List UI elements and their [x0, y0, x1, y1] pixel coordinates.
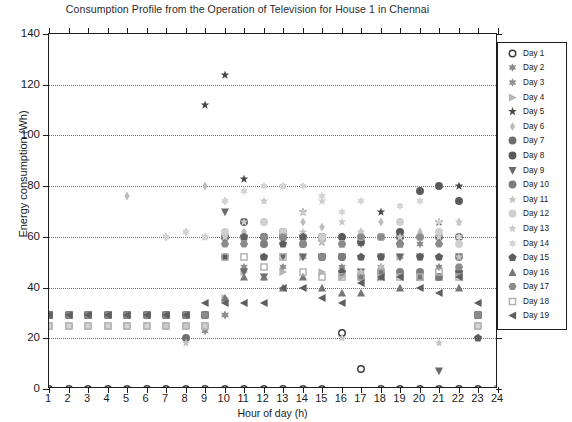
- legend-item[interactable]: Day 16: [498, 265, 566, 280]
- legend-item[interactable]: Day 6: [498, 119, 566, 134]
- triangle-up-icon: [501, 268, 523, 277]
- legend-item[interactable]: Day 2: [498, 61, 566, 76]
- data-point: [298, 283, 307, 292]
- data-point: [279, 268, 288, 277]
- data-point: [123, 321, 132, 330]
- data-point: [298, 253, 307, 262]
- x-axis-tick-label: 22: [452, 392, 464, 404]
- data-point: [415, 232, 424, 241]
- data-point: [298, 240, 307, 249]
- legend-item-label: Day 17: [523, 282, 549, 291]
- data-point: [240, 240, 249, 249]
- data-point: [415, 187, 424, 196]
- legend-item[interactable]: Day 1: [498, 46, 566, 61]
- data-point: [49, 385, 54, 388]
- data-point: [279, 253, 288, 262]
- data-point: [415, 197, 424, 206]
- x-axis-tick-label: 2: [64, 392, 70, 404]
- x-axis-tick-label: 11: [237, 392, 248, 404]
- data-point: [123, 192, 132, 201]
- y-axis-tick-label: 140: [21, 27, 40, 39]
- legend-item-label: Day 14: [523, 239, 549, 248]
- legend-item[interactable]: Day 13: [498, 221, 566, 236]
- diamond-icon: [501, 122, 523, 131]
- data-point: [201, 298, 210, 307]
- data-point: [415, 385, 424, 388]
- data-point: [181, 321, 190, 330]
- data-point: [279, 385, 288, 388]
- data-point: [494, 385, 497, 388]
- data-point: [220, 311, 229, 320]
- data-point: [298, 268, 307, 277]
- data-point: [435, 217, 444, 226]
- data-point: [64, 311, 73, 320]
- legend-item-label: Day 7: [523, 136, 544, 145]
- legend-item-label: Day 8: [523, 151, 544, 160]
- x-axis-tick-label: 15: [315, 392, 327, 404]
- legend-item-label: Day 18: [523, 297, 549, 306]
- data-point: [240, 385, 249, 388]
- legend-item[interactable]: Day 5: [498, 104, 566, 119]
- data-point: [474, 298, 483, 307]
- legend-item[interactable]: Day 8: [498, 148, 566, 163]
- star-icon: [501, 195, 523, 204]
- data-point: [123, 385, 132, 388]
- legend-item[interactable]: Day 14: [498, 236, 566, 251]
- y-axis-tick-label: 40: [27, 281, 40, 293]
- chart-figure: Consumption Profile from the Operation o…: [0, 0, 572, 422]
- data-point: [337, 298, 346, 307]
- data-point: [103, 311, 112, 320]
- data-point: [220, 207, 229, 216]
- data-point: [376, 253, 385, 262]
- data-point: [337, 334, 346, 343]
- data-point: [318, 222, 327, 231]
- data-point: [357, 232, 366, 241]
- legend-item[interactable]: Day 7: [498, 134, 566, 149]
- data-point: [435, 367, 444, 376]
- x-axis-tick-label: 8: [182, 392, 188, 404]
- data-point: [318, 293, 327, 302]
- data-point: [435, 385, 444, 388]
- data-point: [240, 217, 249, 226]
- data-point: [454, 273, 463, 282]
- legend-item[interactable]: Day 3: [498, 75, 566, 90]
- data-point: [396, 385, 405, 388]
- data-point: [103, 385, 112, 388]
- data-point: [49, 321, 54, 330]
- star-icon: [501, 107, 523, 116]
- legend-item[interactable]: Day 18: [498, 294, 566, 309]
- circle-filled-icon: [501, 209, 523, 218]
- data-point: [298, 182, 307, 191]
- legend-item-label: Day 5: [523, 107, 544, 116]
- x-axis-tick-label: 6: [143, 392, 149, 404]
- data-point: [376, 232, 385, 241]
- y-axis-tick-label: 80: [27, 179, 40, 191]
- legend-item[interactable]: Day 4: [498, 90, 566, 105]
- data-point: [396, 202, 405, 211]
- legend-item[interactable]: Day 11: [498, 192, 566, 207]
- legend-item[interactable]: Day 19: [498, 309, 566, 324]
- hexagram-icon: [501, 63, 523, 72]
- data-point: [435, 253, 444, 262]
- x-axis-tick-label: 7: [162, 392, 168, 404]
- legend-item[interactable]: Day 15: [498, 250, 566, 265]
- x-axis-tick-label: 24: [491, 392, 503, 404]
- y-axis-tick-labels: 020406080100120140: [0, 0, 48, 422]
- legend-item[interactable]: Day 9: [498, 163, 566, 178]
- data-point: [220, 385, 229, 388]
- data-point: [376, 273, 385, 282]
- data-point: [454, 385, 463, 388]
- hexagram-icon: [501, 78, 523, 87]
- y-axis-tick-label: 60: [27, 230, 40, 242]
- data-point: [415, 253, 424, 262]
- legend-item[interactable]: Day 17: [498, 280, 566, 295]
- legend-item[interactable]: Day 10: [498, 177, 566, 192]
- data-point: [337, 217, 346, 226]
- data-points-layer: [49, 34, 496, 387]
- legend-item[interactable]: Day 12: [498, 207, 566, 222]
- legend-item-label: Day 19: [523, 311, 549, 320]
- data-point: [298, 385, 307, 388]
- triangle-right-icon: [501, 93, 523, 102]
- data-point: [162, 321, 171, 330]
- data-point: [259, 253, 268, 262]
